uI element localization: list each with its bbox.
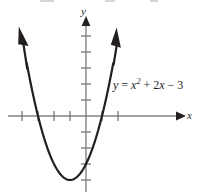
equation-term2: + 2 (140, 78, 159, 92)
equation-annotation: y = x2 + 2x − 3 (113, 79, 183, 91)
equation-term3: − 3 (165, 78, 184, 92)
coordinate-plane (0, 0, 198, 194)
x-axis-label: x (187, 110, 192, 121)
parabola-figure: y x y = x2 + 2x − 3 (0, 0, 198, 194)
y-axis-arrowhead (82, 16, 91, 26)
equation-equals: = (118, 78, 131, 92)
x-axis-arrowhead (176, 112, 186, 121)
parabola-curve (27, 63, 113, 180)
y-axis-label: y (81, 6, 86, 17)
